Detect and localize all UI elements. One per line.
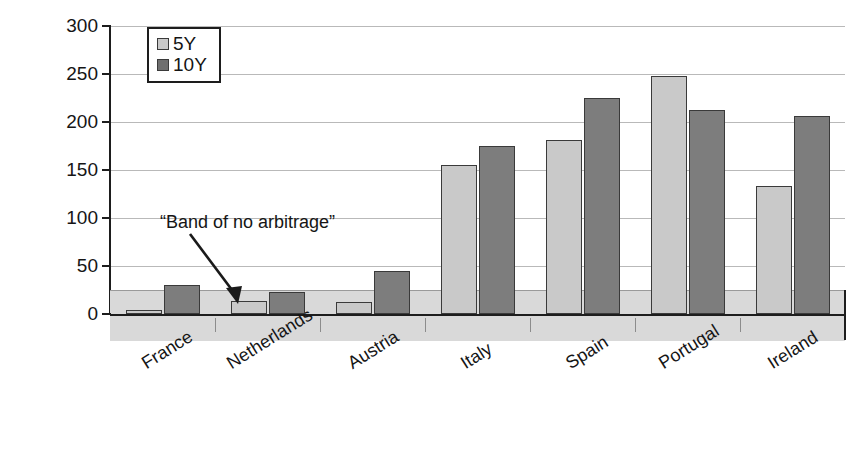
band-annotation-arrow-icon [188,232,258,310]
legend-item-5y: 5Y [157,34,207,55]
bar-ireland-5y [756,186,792,314]
gridline-200 [110,122,845,123]
chart-figure: Total pick-up in bp (adjusted) 050100150… [0,0,867,452]
y-tick-label-150: 150 [66,159,98,181]
y-tick-mark-150 [102,169,111,171]
y-tick-mark-100 [102,217,111,219]
x-group-tick-0 [215,318,216,332]
legend-label-10y: 10Y [173,55,207,76]
zero-baseline [110,314,845,316]
y-tick-mark-200 [102,121,111,123]
x-group-tick-1 [320,318,321,332]
bar-italy-5y [441,165,477,314]
y-tick-label-250: 250 [66,63,98,85]
y-tick-mark-300 [102,25,111,27]
y-axis-title: Total pick-up in bp (adjusted) [2,0,46,56]
y-tick-label-100: 100 [66,207,98,229]
legend-item-10y: 10Y [157,55,207,76]
bar-ireland-10y [794,116,830,314]
x-group-tick-3 [530,318,531,332]
y-tick-mark-0 [102,313,111,315]
gridline-150 [110,170,845,171]
y-tick-label-300: 300 [66,15,98,37]
x-group-tick-2 [425,318,426,332]
band-annotation-label: “Band of no arbitrage” [160,212,335,233]
bar-spain-10y [584,98,620,314]
chart-legend: 5Y 10Y [147,27,221,83]
bar-portugal-5y [651,76,687,314]
legend-swatch-10y-icon [157,59,169,71]
bar-netherlands-10y [269,292,305,314]
x-group-tick-4 [635,318,636,332]
bar-france-5y [126,310,162,314]
x-axis-label-italy: Italy [457,339,496,374]
bar-italy-10y [479,146,515,314]
y-tick-label-0: 0 [87,303,98,325]
bar-austria-5y [336,302,372,314]
bar-spain-5y [546,140,582,314]
y-tick-label-50: 50 [77,255,98,277]
legend-swatch-5y-icon [157,38,169,50]
bar-portugal-10y [689,110,725,314]
legend-label-5y: 5Y [173,34,196,55]
y-tick-label-200: 200 [66,111,98,133]
x-group-tick-5 [740,318,741,332]
y-tick-mark-50 [102,265,111,267]
y-tick-mark-250 [102,73,111,75]
bar-austria-10y [374,271,410,314]
